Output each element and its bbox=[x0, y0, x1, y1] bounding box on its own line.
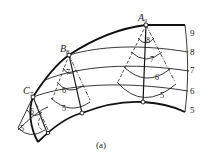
cone-A-label-5: 5 bbox=[160, 91, 164, 100]
right-edge-line bbox=[185, 25, 188, 112]
point-B-label: B8 bbox=[60, 43, 69, 55]
bottom-boundary-curve bbox=[38, 102, 185, 142]
cone-C-label-6: 6 bbox=[30, 107, 34, 116]
cone-A-label-7: 7 bbox=[150, 55, 154, 64]
cone-B-label-7: 7 bbox=[66, 68, 70, 77]
cone-A-arc-7 bbox=[131, 52, 162, 59]
top-boundary-curve bbox=[30, 25, 185, 142]
cone-C-label-5: 5 bbox=[20, 124, 24, 133]
cone-A-arc-6 bbox=[124, 67, 170, 78]
level-label-7: 7 bbox=[190, 65, 195, 75]
cone-A-arc-5 bbox=[117, 82, 176, 98]
cone-A-label-8: 8 bbox=[146, 36, 150, 45]
cone-B-arc-6 bbox=[57, 82, 83, 90]
cone-A-label-6: 6 bbox=[155, 73, 159, 82]
level-label-5: 5 bbox=[190, 105, 195, 115]
cone-B-label-5: 5 bbox=[62, 104, 66, 113]
point-C-label: C7 bbox=[23, 85, 34, 97]
cone-B-label-6: 6 bbox=[62, 86, 66, 95]
cone-B-axis bbox=[69, 55, 82, 113]
contour-6 bbox=[33, 85, 188, 97]
level-label-8: 8 bbox=[190, 47, 195, 57]
point-A-label: A9 bbox=[137, 12, 147, 24]
point-A-base bbox=[141, 100, 145, 104]
point-B-base bbox=[80, 111, 84, 115]
cone-contour-diagram: A9 B8 C7 9 8 7 6 5 8 7 6 5 7 6 5 6 5 (a) bbox=[0, 0, 208, 161]
point-C-base bbox=[46, 131, 49, 134]
figure-caption: (a) bbox=[96, 140, 106, 150]
cone-B-right-generator bbox=[69, 55, 90, 100]
contour-8 bbox=[69, 47, 188, 55]
level-label-6: 6 bbox=[190, 86, 195, 96]
cone-B-arc-5 bbox=[51, 98, 90, 108]
level-label-9: 9 bbox=[190, 28, 195, 38]
